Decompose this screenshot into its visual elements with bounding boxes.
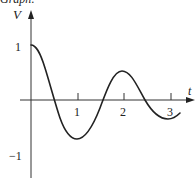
- x-tick-label-3: 3: [167, 105, 173, 119]
- y-axis-label: V: [13, 7, 23, 22]
- x-axis-label: t: [188, 84, 192, 98]
- y-tick-label-neg-1: −1: [9, 149, 22, 163]
- damped-oscillation-graph: Graph: V t 1 2 3 1 −1: [0, 0, 195, 183]
- header-partial-text: Graph:: [0, 0, 35, 6]
- y-tick-label-1: 1: [15, 40, 21, 54]
- x-tick-label-2: 2: [120, 105, 126, 119]
- damped-oscillation-curve: [31, 45, 180, 139]
- y-axis-arrow-icon: [28, 10, 34, 19]
- x-tick-label-1: 1: [74, 105, 80, 119]
